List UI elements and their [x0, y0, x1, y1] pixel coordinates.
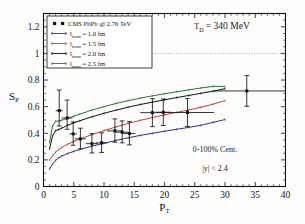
legend-marker-square-2 — [61, 22, 64, 25]
data-marker — [245, 89, 248, 92]
legend-marker-square — [53, 22, 56, 25]
data-marker — [121, 131, 124, 134]
data-point — [107, 119, 123, 142]
x-tick-label: 25 — [190, 190, 200, 200]
y-axis-title: SP — [9, 90, 19, 104]
figure-container: 051015202530354000.20.40.60.811.2PTSPTD … — [0, 0, 305, 224]
y-axis-title-sub: P — [15, 96, 19, 104]
legend-label-value: = 2.5 fm — [81, 60, 106, 67]
data-point — [96, 133, 108, 153]
data-point — [70, 122, 77, 145]
data-marker — [186, 111, 189, 114]
x-tick-label: 5 — [71, 190, 76, 200]
annotation-temperature-value: = 340 MeV — [203, 21, 249, 31]
x-tick-label: 35 — [251, 190, 261, 200]
x-tick-label: 30 — [220, 190, 230, 200]
data-marker — [100, 141, 103, 144]
annotation-temperature: TD = 340 MeV — [194, 21, 250, 33]
x-tick-label: 0 — [41, 190, 46, 200]
y-tick-label: 0.8 — [28, 75, 40, 85]
legend-label-sub: form — [72, 64, 81, 69]
x-tick-label: 40 — [281, 190, 291, 200]
data-marker — [90, 142, 93, 145]
data-marker — [66, 116, 69, 119]
y-tick-label: 0 — [35, 182, 40, 192]
data-point — [213, 76, 286, 107]
legend-label: CMS PbPb @ 2.76 TeV — [68, 20, 131, 27]
data-marker — [72, 132, 75, 135]
legend-label-value: = 1.0 fm — [81, 30, 106, 37]
annotation-rapidity: |y| < 2.4 — [202, 164, 228, 173]
data-marker — [79, 137, 82, 140]
data-marker — [113, 129, 116, 132]
legend-label-sub: form — [72, 34, 81, 39]
x-tick-label: 20 — [160, 190, 170, 200]
curve-3 — [50, 89, 225, 149]
y-tick-label: 1.2 — [28, 22, 40, 32]
legend-label-sub: form — [72, 54, 81, 59]
x-tick-label: 15 — [130, 190, 140, 200]
legend-label-value: = 1.5 fm — [81, 40, 106, 47]
plot-svg: 051015202530354000.20.40.60.811.2PTSPTD … — [0, 0, 305, 224]
data-marker — [128, 132, 131, 135]
legend-label-sub: form — [72, 44, 81, 49]
x-axis-title-sub: T — [165, 207, 170, 215]
y-tick-label: 0.6 — [28, 102, 40, 112]
annotation-centrality: 0-100% Cent. — [193, 145, 237, 154]
x-tick-label: 10 — [99, 190, 109, 200]
data-marker — [151, 111, 154, 114]
data-point — [62, 100, 73, 129]
data-point — [75, 128, 86, 149]
y-axis-title-group: SP — [9, 90, 19, 104]
legend-label-value: = 2.0 fm — [81, 50, 106, 57]
data-marker — [58, 109, 61, 112]
y-tick-label: 0.2 — [28, 155, 40, 165]
x-axis-title: PT — [159, 201, 170, 215]
data-point — [161, 99, 214, 127]
y-tick-label: 0.4 — [28, 129, 40, 139]
data-point — [123, 122, 135, 145]
y-tick-label: 1 — [35, 49, 40, 59]
